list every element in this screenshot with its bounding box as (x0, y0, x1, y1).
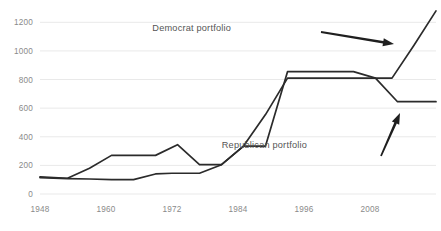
data-series (40, 11, 436, 180)
x-tick-label-1984: 1984 (228, 205, 247, 214)
x-tick-label-1972: 1972 (162, 205, 181, 214)
y-tick-label-400: 400 (19, 133, 34, 142)
x-tick-label-1996: 1996 (294, 205, 313, 214)
y-tick-label-0: 0 (28, 190, 33, 199)
chart-canvas: 020040060080010001200 194819601972198419… (0, 0, 441, 231)
y-tick-label-200: 200 (19, 161, 34, 170)
series-line-republican-portfolio (40, 11, 436, 180)
x-tick-label-2008: 2008 (360, 205, 379, 214)
x-axis-tick-labels: 194819601972198419962008 (30, 205, 379, 214)
y-tick-label-600: 600 (19, 104, 34, 113)
republican-annotation-arrow-icon (380, 113, 400, 156)
y-axis-tick-labels: 020040060080010001200 (14, 18, 33, 199)
y-tick-label-1000: 1000 (14, 47, 33, 56)
democrat-annotation-label: Democrat portfolio (152, 23, 231, 33)
x-tick-label-1960: 1960 (96, 205, 115, 214)
series-line-democrat-portfolio (40, 72, 436, 179)
x-tick-label-1948: 1948 (30, 205, 49, 214)
republican-annotation-label: Republican portfolio (222, 140, 307, 150)
democrat-annotation-arrow-icon (321, 31, 394, 46)
y-tick-label-800: 800 (19, 76, 34, 85)
y-tick-label-1200: 1200 (14, 18, 33, 27)
line-chart: 020040060080010001200 194819601972198419… (0, 0, 441, 231)
gridlines (40, 22, 436, 194)
